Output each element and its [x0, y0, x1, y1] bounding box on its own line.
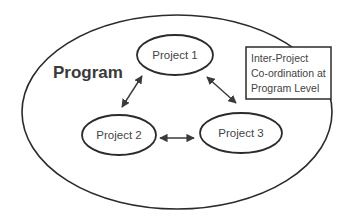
project-1-node: Project 1 [137, 35, 213, 75]
project-3-node: Project 3 [200, 113, 282, 153]
note-line-2: Co-ordination at [251, 67, 326, 79]
note-line-1: Inter-Project [251, 52, 308, 64]
coordination-note: Inter-Project Co-ordination at Program L… [246, 47, 331, 99]
project-3-label: Project 3 [218, 127, 263, 139]
arrow-project1-project3 [207, 77, 236, 103]
project-2-node: Project 2 [82, 115, 156, 155]
project-1-label: Project 1 [152, 49, 197, 61]
program-diagram: Program Project 1 Project 2 Project 3 In… [0, 0, 350, 223]
arrow-project1-project2 [122, 76, 142, 107]
note-line-3: Program Level [251, 82, 319, 94]
project-2-label: Project 2 [96, 129, 141, 141]
program-label: Program [53, 63, 123, 82]
